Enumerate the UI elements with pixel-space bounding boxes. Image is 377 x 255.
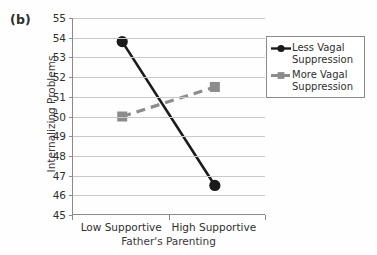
circle-marker-icon xyxy=(270,42,292,55)
y-tick-label: 48 xyxy=(44,151,66,162)
x-axis-title: Father's Parenting xyxy=(72,235,265,247)
gridline xyxy=(73,38,265,39)
y-tick-label: 51 xyxy=(44,92,66,103)
legend-item-label: More Vagal Suppression xyxy=(292,69,353,93)
gridline xyxy=(73,77,265,78)
x-tick-label: High Supportive xyxy=(172,221,257,233)
square-marker-icon xyxy=(270,69,292,82)
legend-item: More Vagal Suppression xyxy=(270,69,364,93)
y-tick-mark xyxy=(69,38,73,39)
y-tick-label: 46 xyxy=(44,190,66,201)
y-tick-label: 47 xyxy=(44,170,66,181)
panel-label: (b) xyxy=(10,12,31,27)
x-tick-mark xyxy=(265,215,266,220)
plot-area xyxy=(72,18,265,215)
legend-item-label: Less Vagal Suppression xyxy=(292,42,353,66)
y-tick-mark xyxy=(69,215,73,216)
circle-marker-icon xyxy=(209,180,220,191)
y-tick-mark xyxy=(69,156,73,157)
gridline xyxy=(73,97,265,98)
y-tick-mark xyxy=(69,18,73,19)
series-line xyxy=(122,42,215,186)
y-tick-label: 45 xyxy=(44,210,66,221)
y-tick-mark xyxy=(69,97,73,98)
y-tick-mark xyxy=(69,117,73,118)
y-tick-label: 49 xyxy=(44,131,66,142)
chart-figure: (b) Internalizing Problems 5554535251504… xyxy=(0,0,377,255)
y-tick-mark xyxy=(69,195,73,196)
gridline xyxy=(73,136,265,137)
x-tick-mark xyxy=(169,215,170,220)
y-tick-mark xyxy=(69,57,73,58)
gridline xyxy=(73,156,265,157)
y-tick-label: 52 xyxy=(44,72,66,83)
gridline xyxy=(73,176,265,177)
y-tick-mark xyxy=(69,136,73,137)
y-tick-label: 53 xyxy=(44,52,66,63)
x-tick-label: Low Supportive xyxy=(81,221,162,233)
y-tick-mark xyxy=(69,77,73,78)
gridline xyxy=(73,195,265,196)
y-tick-label: 55 xyxy=(44,13,66,24)
gridline xyxy=(73,18,265,19)
gridline xyxy=(73,57,265,58)
square-marker-icon xyxy=(210,82,220,92)
legend: Less Vagal SuppressionMore Vagal Suppres… xyxy=(266,36,365,98)
y-tick-mark xyxy=(69,176,73,177)
y-axis-tick-labels: 5554535251504948474645 xyxy=(44,18,66,215)
y-tick-label: 54 xyxy=(44,32,66,43)
legend-item: Less Vagal Suppression xyxy=(270,42,364,66)
y-tick-label: 50 xyxy=(44,111,66,122)
gridline xyxy=(73,117,265,118)
